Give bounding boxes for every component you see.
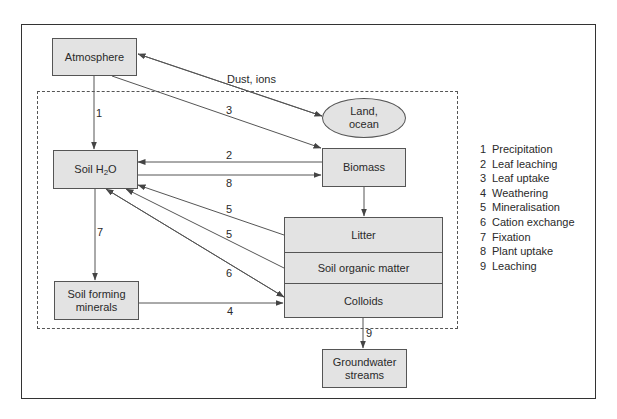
edge-label-5b: 5: [226, 228, 232, 240]
legend-item: 9Leaching: [480, 259, 575, 274]
litter-label: Litter: [351, 229, 375, 241]
soil-organic-matter-label: Soil organic matter: [318, 262, 410, 274]
colloids-label: Colloids: [344, 295, 383, 307]
soil-forming-minerals-label: Soil formingminerals: [67, 288, 125, 314]
legend-item: 1Precipitation: [480, 142, 575, 157]
biomass-node: Biomass: [322, 148, 406, 187]
edge-label-1: 1: [96, 107, 102, 119]
soil-pool-stack: Litter Soil organic matter Colloids: [284, 217, 443, 318]
land-ocean-label: Land,ocean: [349, 105, 379, 131]
biomass-label: Biomass: [343, 161, 385, 174]
legend-item: 3Leaf uptake: [480, 171, 575, 186]
edge-label-2: 2: [226, 149, 232, 161]
edge-label-9: 9: [366, 327, 372, 339]
land-ocean-node: Land,ocean: [322, 98, 406, 138]
edge-label-4: 4: [227, 305, 233, 317]
litter-node: Litter: [285, 218, 442, 253]
soil-organic-matter-node: Soil organic matter: [285, 253, 442, 284]
legend: 1Precipitation 2Leaf leaching 3Leaf upta…: [480, 142, 575, 273]
edge-label-5a: 5: [226, 203, 232, 215]
edge-label-3: 3: [226, 104, 232, 116]
atmosphere-node: Atmosphere: [52, 38, 137, 76]
edge-label-8: 8: [226, 177, 232, 189]
legend-item: 2Leaf leaching: [480, 157, 575, 172]
colloids-node: Colloids: [285, 284, 442, 317]
edge-label-6: 6: [226, 267, 232, 279]
groundwater-streams-label: Groundwaterstreams: [333, 356, 397, 382]
legend-item: 4Weathering: [480, 186, 575, 201]
soil-forming-minerals-node: Soil formingminerals: [54, 281, 139, 320]
legend-item: 8Plant uptake: [480, 244, 575, 259]
soil-h2o-node: Soil H2O: [53, 150, 138, 189]
legend-item: 5Mineralisation: [480, 200, 575, 215]
legend-item: 7Fixation: [480, 230, 575, 245]
edge-label-dust-ions: Dust, ions: [227, 73, 276, 85]
legend-item: 6Cation exchange: [480, 215, 575, 230]
soil-h2o-label: Soil H2O: [74, 163, 116, 176]
atmosphere-label: Atmosphere: [65, 51, 124, 64]
groundwater-streams-node: Groundwaterstreams: [322, 349, 407, 388]
edge-label-7: 7: [97, 226, 103, 238]
